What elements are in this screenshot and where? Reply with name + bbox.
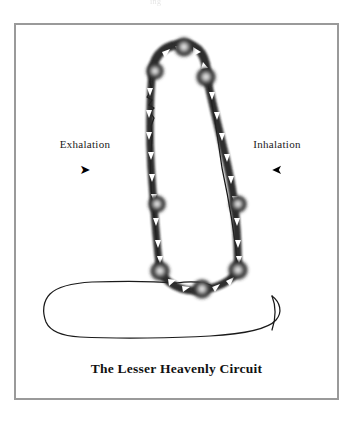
figure-page: ing bbox=[0, 0, 355, 423]
inhalation-arrow-icon: ➤ bbox=[232, 163, 322, 176]
exhalation-label: Exhalation bbox=[40, 138, 130, 150]
exhalation-arrow-icon: ➤ bbox=[40, 163, 130, 176]
inhalation-label: Inhalation bbox=[232, 138, 322, 150]
page-bleed-text: ing bbox=[150, 0, 350, 7]
figure-caption: The Lesser Heavenly Circuit bbox=[14, 361, 339, 377]
figure-frame bbox=[14, 23, 339, 400]
